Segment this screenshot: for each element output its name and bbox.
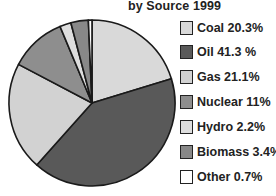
legend-label-gas: Gas 21.1% xyxy=(197,70,260,84)
legend-swatch-nuclear xyxy=(180,95,193,109)
pie-chart xyxy=(0,0,180,196)
legend-item-biomass: Biomass 3.4% xyxy=(180,144,276,160)
legend-swatch-oil xyxy=(180,45,193,59)
legend-label-biomass: Biomass 3.4% xyxy=(197,145,276,159)
legend-swatch-biomass xyxy=(180,145,193,159)
legend-label-hydro: Hydro 2.2% xyxy=(197,120,265,134)
legend-item-coal: Coal 20.3% xyxy=(180,20,263,36)
legend-swatch-hydro xyxy=(180,120,193,134)
legend-swatch-coal xyxy=(180,21,193,35)
legend-label-coal: Coal 20.3% xyxy=(197,21,263,35)
legend-label-nuclear: Nuclear 11% xyxy=(197,95,271,109)
legend-swatch-gas xyxy=(180,70,193,84)
legend-label-other: Other 0.7% xyxy=(197,170,262,184)
legend-item-oil: Oil 41.3 % xyxy=(180,44,256,60)
legend-item-gas: Gas 21.1% xyxy=(180,69,260,85)
legend-item-hydro: Hydro 2.2% xyxy=(180,119,265,135)
legend-item-other: Other 0.7% xyxy=(180,169,262,185)
legend-item-nuclear: Nuclear 11% xyxy=(180,94,271,110)
legend-swatch-other xyxy=(180,170,193,184)
legend-label-oil: Oil 41.3 % xyxy=(197,45,256,59)
